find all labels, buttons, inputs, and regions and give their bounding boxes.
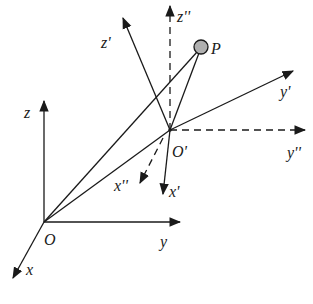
label-y: y <box>158 233 168 251</box>
label-P: P <box>210 40 221 57</box>
origin-O-prime-dot <box>168 128 172 132</box>
axis-z-prime <box>123 18 170 130</box>
vector-O-to-Oprime <box>44 130 170 222</box>
label-y-dprime: y'' <box>285 144 302 162</box>
label-z-prime: z' <box>100 34 111 51</box>
coordinate-frames-diagram: z y x O O' z' y' x' z'' y'' x'' P <box>0 0 313 304</box>
point-P <box>194 40 208 54</box>
label-y-prime: y' <box>278 83 291 101</box>
axis-x-dprime <box>140 138 163 183</box>
label-O: O <box>44 231 56 248</box>
frame-O <box>13 101 180 278</box>
label-z-dprime: z'' <box>176 8 191 25</box>
label-x-dprime: x'' <box>113 177 129 194</box>
label-z: z <box>23 104 31 121</box>
label-O-prime: O' <box>172 143 188 160</box>
label-x: x <box>25 261 33 278</box>
label-x-prime: x' <box>168 183 180 200</box>
